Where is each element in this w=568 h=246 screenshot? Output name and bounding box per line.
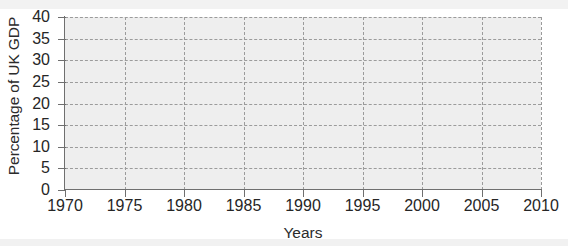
gridline-horizontal bbox=[65, 82, 541, 83]
y-axis-tick-label: 25 bbox=[14, 74, 50, 90]
y-axis-tick bbox=[58, 17, 66, 18]
x-axis-tick bbox=[125, 190, 126, 197]
x-axis-tick-label: 1980 bbox=[154, 198, 214, 214]
x-axis-tick-label: 2010 bbox=[511, 198, 568, 214]
y-axis-tick-label: 10 bbox=[14, 139, 50, 155]
gridline-horizontal bbox=[65, 168, 541, 169]
gridline-vertical bbox=[303, 17, 304, 190]
x-axis-tick-label: 1975 bbox=[95, 198, 155, 214]
x-axis-tick-label: 2005 bbox=[452, 198, 512, 214]
gridline-horizontal bbox=[65, 60, 541, 61]
x-axis-tick bbox=[65, 190, 66, 197]
gridline-vertical bbox=[244, 17, 245, 190]
plot-area bbox=[65, 17, 541, 190]
x-axis-tick bbox=[422, 190, 423, 197]
x-axis-tick bbox=[541, 190, 542, 197]
y-axis-tick bbox=[58, 147, 66, 148]
x-axis-tick bbox=[482, 190, 483, 197]
x-axis-tick-label: 1970 bbox=[35, 198, 95, 214]
x-axis-tick-label: 1995 bbox=[333, 198, 393, 214]
scan-artifact-top bbox=[0, 0, 568, 9]
gridline-vertical bbox=[125, 17, 126, 190]
x-axis-tick-label: 2000 bbox=[392, 198, 452, 214]
y-axis-tick bbox=[58, 104, 66, 105]
y-axis-tick-label: 20 bbox=[14, 96, 50, 112]
x-axis-title: Years bbox=[65, 224, 541, 242]
y-axis-tick bbox=[58, 125, 66, 126]
y-axis-tick bbox=[58, 82, 66, 83]
chart-figure: Percentage of UK GDP Years 0510152025303… bbox=[0, 0, 568, 246]
x-axis-tick bbox=[184, 190, 185, 197]
x-axis-tick bbox=[363, 190, 364, 197]
gridline-horizontal bbox=[65, 125, 541, 126]
gridline-horizontal bbox=[65, 17, 541, 18]
gridline-vertical bbox=[541, 17, 542, 190]
x-axis-tick bbox=[244, 190, 245, 197]
y-axis-tick-label: 30 bbox=[14, 52, 50, 68]
gridline-horizontal bbox=[65, 39, 541, 40]
y-axis-tick bbox=[58, 39, 66, 40]
gridline-horizontal bbox=[65, 147, 541, 148]
x-axis-tick-label: 1990 bbox=[273, 198, 333, 214]
y-axis-tick bbox=[58, 60, 66, 61]
y-axis-tick-label: 40 bbox=[14, 9, 50, 25]
x-axis-tick-label: 1985 bbox=[214, 198, 274, 214]
x-axis-tick bbox=[303, 190, 304, 197]
gridline-vertical bbox=[482, 17, 483, 190]
y-axis-tick-label: 5 bbox=[14, 160, 50, 176]
y-axis-tick bbox=[58, 168, 66, 169]
y-axis-tick-label: 15 bbox=[14, 117, 50, 133]
gridline-vertical bbox=[363, 17, 364, 190]
y-axis-tick-label: 0 bbox=[14, 182, 50, 198]
gridline-vertical bbox=[184, 17, 185, 190]
gridline-vertical bbox=[422, 17, 423, 190]
y-axis-tick-label: 35 bbox=[14, 31, 50, 47]
gridline-horizontal bbox=[65, 104, 541, 105]
